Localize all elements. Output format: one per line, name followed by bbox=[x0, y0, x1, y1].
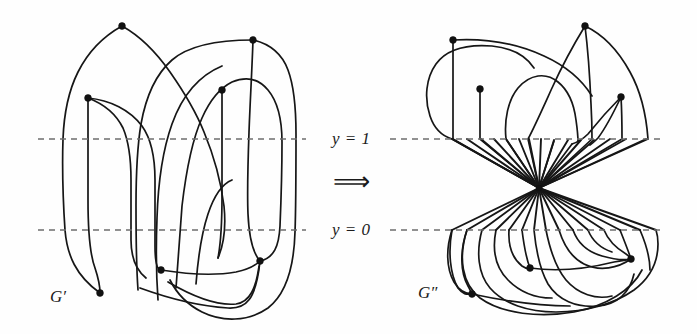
vertex bbox=[582, 23, 589, 30]
axis-label-y0-text: y = 0 bbox=[332, 220, 371, 239]
graph-label-right-text: G″ bbox=[418, 283, 437, 302]
graph-label-left: G′ bbox=[50, 287, 66, 307]
graph-label-right: G″ bbox=[418, 283, 437, 303]
vertex bbox=[618, 94, 625, 101]
axis-label-y0: y = 0 bbox=[332, 220, 371, 240]
graph-right-curves bbox=[427, 26, 658, 315]
graph-left-vertices bbox=[85, 23, 264, 297]
axis-label-y1-text: y = 1 bbox=[332, 129, 371, 148]
vertex bbox=[469, 291, 476, 298]
vertex bbox=[257, 258, 264, 265]
vertex bbox=[527, 265, 534, 272]
vertex bbox=[219, 87, 226, 94]
vertex bbox=[628, 256, 635, 263]
hub-spokes-lower bbox=[452, 188, 656, 230]
vertex bbox=[85, 95, 92, 102]
hub-vertex bbox=[536, 185, 542, 191]
figure-canvas: y = 1 y = 0 ⟹ G′ G″ bbox=[0, 0, 697, 334]
graph-label-left-text: G′ bbox=[50, 287, 66, 306]
graph-left-curves bbox=[63, 26, 296, 319]
implication-arrow-icon: ⟹ bbox=[333, 166, 370, 197]
vertex bbox=[250, 37, 257, 44]
graph-right-vertices bbox=[450, 23, 635, 298]
implication-arrow-glyph: ⟹ bbox=[333, 167, 370, 196]
vertex bbox=[450, 37, 457, 44]
hub-spokes-upper bbox=[452, 139, 646, 188]
vertex bbox=[158, 267, 165, 274]
axis-label-y1: y = 1 bbox=[332, 129, 371, 149]
vertex bbox=[97, 290, 104, 297]
vertex bbox=[477, 86, 484, 93]
vertex bbox=[119, 23, 126, 30]
